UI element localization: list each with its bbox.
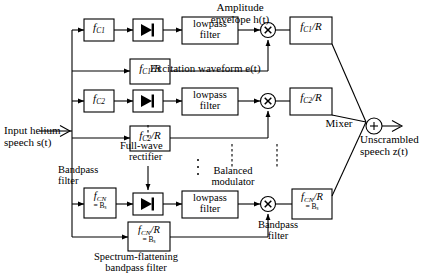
channel-n-excitation-wires: [72, 214, 268, 251]
summing-junction: [366, 118, 382, 134]
balanced-modulator-line2: modulator: [200, 176, 266, 187]
fcnr-eq-line: = B: [142, 235, 153, 244]
channel-n-analysis-filter-label: fCN = Bs: [84, 190, 116, 211]
figure-canvas: fC1 lowpass filter fC1/R fC1/R fC2 lowpa…: [0, 0, 434, 280]
bandpass-filter-right-annotation: Bandpass filter: [248, 219, 308, 242]
input-label-line2: speech s(t): [4, 137, 82, 149]
spectrum-flattening-annotation: Spectrum-flattening bandpass filter: [55, 251, 217, 274]
balanced-modulator-line1: Balanced: [200, 165, 266, 176]
channel-1-synthesis-filter-label: fC1/R: [290, 21, 332, 33]
bandpass-right-line2: filter: [248, 230, 308, 241]
channel-2-lowpass-filter-label: lowpass filter: [182, 90, 238, 111]
continuation-dots: [197, 159, 199, 175]
channel-2-analysis-filter-label: fC2: [84, 93, 114, 105]
channel-n-synthesis-filter-label: fCN/R = Bs: [292, 191, 332, 212]
excitation-waveform-annotation: Excitation waveform e(t): [150, 63, 300, 75]
amplitude-envelope-annotation: Amplitude envelope h(t): [190, 2, 290, 26]
bandpass-left-line1: Bandpass: [58, 164, 118, 175]
lowpass-line2: filter: [182, 204, 238, 215]
bandpass-left-line2: filter: [58, 175, 118, 186]
fcnr-out-eq-line: = B: [305, 202, 316, 211]
fcn-eq-subscript: s: [105, 204, 107, 210]
spectrum-flattening-line2: bandpass filter: [55, 262, 217, 273]
amplitude-envelope-line2: envelope h(t): [211, 13, 269, 25]
fcnr-eq-subscript: s: [154, 238, 156, 244]
fcn-eq-line: = B: [93, 201, 104, 210]
fcnr-suffix: /R: [151, 224, 160, 235]
channel-n-lowpass-filter-label: lowpass filter: [182, 193, 238, 214]
fc1-subscript: C1: [96, 26, 105, 35]
full-wave-rectifier-annotation: Full-wave rectifier: [120, 140, 182, 163]
input-label: Input helium speech s(t): [0, 125, 82, 149]
channel-n-flattening-filter-label: fCN/R = Bs: [128, 224, 170, 245]
lowpass-line1: lowpass: [182, 193, 238, 204]
bandpass-filter-left-annotation: Bandpass filter: [58, 164, 118, 187]
fc2-subscript: C2: [96, 97, 105, 106]
full-wave-rectifier-line2: rectifier: [120, 151, 182, 162]
spectrum-flattening-line1: Spectrum-flattening: [55, 251, 217, 262]
output-label-line2: speech z(t): [360, 146, 434, 158]
output-label: Unscrambled speech z(t): [360, 134, 434, 158]
fc2r-out-subscript: C2: [303, 96, 312, 105]
lowpass-line2: filter: [182, 30, 238, 41]
fc2r-out-suffix: /R: [312, 91, 322, 103]
fcnr-out-suffix: /R: [314, 191, 323, 202]
balanced-modulator-annotation: Balanced modulator: [200, 165, 266, 188]
full-wave-rectifier-line1: Full-wave: [120, 140, 182, 151]
lowpass-line1: lowpass: [182, 90, 238, 101]
channel-1-analysis-filter-label: fC1: [84, 22, 114, 34]
fc1r-out-subscript: C1: [303, 25, 312, 34]
lowpass-line2: filter: [182, 101, 238, 112]
mixer-label: Mixer: [318, 118, 360, 130]
fcnr-out-eq-subscript: s: [317, 205, 319, 211]
bandpass-right-line1: Bandpass: [248, 219, 308, 230]
channel-2-synthesis-filter-label: fC2/R: [290, 92, 332, 104]
fc1r-out-suffix: /R: [312, 20, 322, 32]
